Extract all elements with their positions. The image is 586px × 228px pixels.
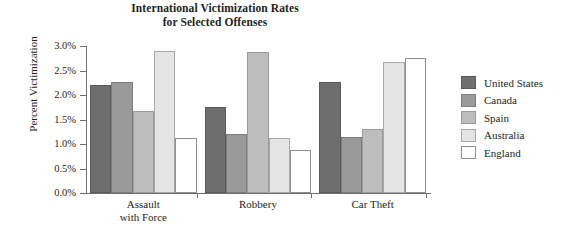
legend-item-label: Spain [484, 112, 509, 124]
legend-swatch-icon [461, 94, 476, 107]
x-axis-line [86, 193, 431, 194]
y-axis-tick-label: 1.5% [30, 115, 76, 125]
x-axis-label-line: Assault [86, 198, 201, 211]
legend-item-united-states: United States [461, 74, 543, 92]
legend-item-label: United States [484, 77, 543, 89]
bar-assault-with-force-australia [154, 51, 175, 193]
x-axis-label-assault-with-force: Assaultwith Force [86, 198, 201, 224]
bar-robbery-england [290, 150, 311, 193]
y-axis-tick-label: 1.0% [30, 139, 76, 149]
bar-car-theft-spain [362, 129, 383, 193]
bar-car-theft-canada [341, 137, 362, 193]
bar-assault-with-force-spain [133, 111, 154, 193]
bar-robbery-australia [269, 138, 290, 193]
y-axis-tick [80, 193, 86, 194]
chart-title: International Victimization Rates for Se… [0, 2, 430, 29]
bar-robbery-canada [226, 134, 247, 193]
bar-robbery-united-states [205, 107, 226, 193]
x-axis-label-line: with Force [86, 211, 201, 224]
legend-swatch-icon [461, 111, 476, 124]
x-axis-label-robbery: Robbery [201, 198, 316, 211]
bar-assault-with-force-canada [111, 82, 132, 193]
legend-swatch-icon [461, 129, 476, 142]
y-axis-tick-label: 2.0% [30, 90, 76, 100]
legend-item-label: Canada [484, 94, 517, 106]
legend-item-spain: Spain [461, 109, 543, 127]
y-axis-tick-label: 0.5% [30, 164, 76, 174]
bar-car-theft-united-states [319, 82, 340, 193]
y-axis-tick-label: 3.0% [30, 41, 76, 51]
x-axis-label-line: Robbery [201, 198, 316, 211]
bar-assault-with-force-england [175, 138, 196, 193]
x-axis-label-line: Car Theft [315, 198, 430, 211]
legend-swatch-icon [461, 76, 476, 89]
legend-item-canada: Canada [461, 92, 543, 110]
bar-robbery-spain [247, 52, 268, 193]
legend-item-label: England [484, 147, 521, 159]
bar-car-theft-australia [383, 62, 404, 193]
legend-item-label: Australia [484, 129, 524, 141]
chart-legend: United StatesCanadaSpainAustraliaEngland [461, 74, 543, 162]
chart-figure: International Victimization Rates for Se… [0, 0, 586, 228]
plot-area [86, 46, 430, 193]
legend-swatch-icon [461, 146, 476, 159]
bar-assault-with-force-united-states [90, 85, 111, 193]
chart-title-line-1: International Victimization Rates [0, 2, 430, 16]
x-axis-label-car-theft: Car Theft [315, 198, 430, 211]
bar-car-theft-england [405, 58, 426, 193]
y-axis-tick-label: 0.0% [30, 188, 76, 198]
y-axis-tick-label: 2.5% [30, 66, 76, 76]
chart-title-line-2: for Selected Offenses [0, 16, 430, 30]
legend-item-australia: Australia [461, 127, 543, 145]
legend-item-england: England [461, 144, 543, 162]
